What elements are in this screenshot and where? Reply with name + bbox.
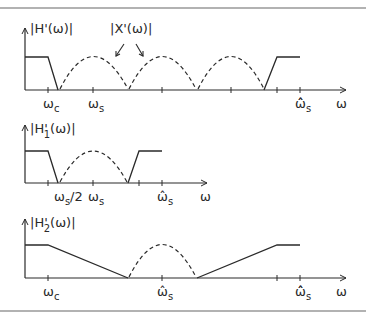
y-axis-label: |H'(ω)| [30,21,73,36]
svg-text:ω: ω [336,284,347,299]
y-axis-label: |H'2(ω)| [30,215,76,234]
svg-text:ω: ω [336,96,347,111]
filter-response-curve [25,57,58,90]
spectrum-replicas [60,57,264,90]
panel-h1-prime: |H'1(ω)| ωs/2 ωs ω̂s ω [25,121,211,207]
x-axis-labels: ωc ω̂s ω̂̂s ω [43,284,347,302]
filter-response-curve [25,245,128,278]
svg-text:ωs: ωs [88,189,104,207]
filter-response-curve-right [197,245,300,278]
x-axis-labels: ωc ωs ω̂̂s ω [43,96,347,114]
svg-text:ω̂̂s: ω̂̂s [295,284,311,302]
filter-response-curve-right [128,151,162,183]
svg-text:ωs/2: ωs/2 [54,189,83,207]
spectrum-replica [129,245,196,278]
filter-response-diagram: |H'(ω)| |X'(ω)| ωc ωs ω̂̂s ω |H'1(ω)| ωs… [0,0,366,321]
x-axis-labels: ωs/2 ωs ω̂s ω [54,189,211,207]
spectrum-replica [60,151,127,182]
filter-response-curve-right [264,57,300,90]
y-axis-label: |H'1(ω)| [30,121,76,140]
filter-response-curve [25,151,58,183]
svg-text:ω̂̂s: ω̂̂s [295,96,311,114]
panel-h2-prime: |H'2(ω)| ωc ω̂s ω̂̂s ω [25,215,347,302]
svg-text:ω̂s: ω̂s [157,189,173,207]
svg-text:ωc: ωc [43,96,59,114]
callout-arrows [116,44,143,56]
callout-label: |X'(ω)| [110,21,152,36]
svg-text:ωs: ωs [88,96,104,114]
svg-text:ω: ω [200,189,211,204]
panel-h-prime: |H'(ω)| |X'(ω)| ωc ωs ω̂̂s ω [25,21,347,114]
svg-text:ωc: ωc [43,284,59,302]
svg-text:ω̂s: ω̂s [157,284,173,302]
